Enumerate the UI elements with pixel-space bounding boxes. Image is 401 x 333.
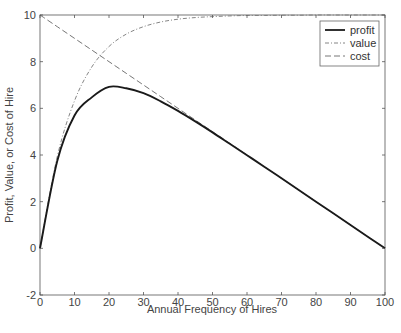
x-tick-label: 90 [344,296,356,308]
y-tick-label: 2 [30,196,36,208]
legend: profit value cost [320,21,379,66]
x-tick-label: 100 [376,296,394,308]
x-tick-label: 10 [68,296,80,308]
y-tick-label: -2 [26,289,36,301]
y-tick-label: 4 [30,149,36,161]
x-tick-label: 70 [275,296,287,308]
y-axis-label: Profit, Value, or Cost of Hire [3,87,15,223]
legend-label-profit: profit [350,24,374,36]
series-profit-line [40,86,385,248]
legend-label-value: value [350,37,376,49]
y-tick-label: 0 [30,242,36,254]
x-axis-label: Annual Frequency of Hires [147,303,278,315]
y-tick-label: 8 [30,56,36,68]
legend-label-cost: cost [350,50,370,62]
x-tick-label: 80 [310,296,322,308]
y-tick-label: 6 [30,102,36,114]
y-tick-label: 10 [24,9,36,21]
x-tick-label: 20 [103,296,115,308]
line-chart: 0102030405060708090100 -20246810 Annual … [0,0,401,333]
x-tick-label: 0 [37,296,43,308]
